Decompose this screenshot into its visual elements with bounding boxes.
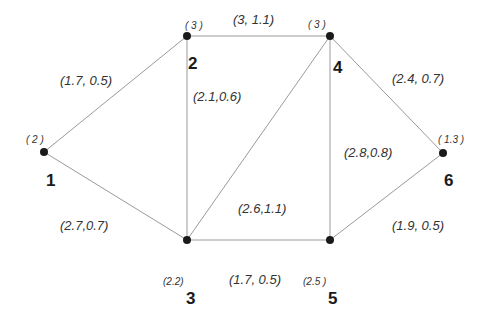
node-id-2: 2 — [188, 54, 197, 73]
edge-label-3-4: (2.6,1.1) — [238, 201, 286, 216]
node-3 — [183, 236, 191, 244]
node-weight-2: ( 3 ) — [185, 20, 203, 31]
node-id-1: 1 — [46, 171, 55, 190]
edge-label-4-5: (2.8,0.8) — [344, 145, 392, 160]
edge-1-2 — [44, 36, 187, 152]
node-weight-5: (2.5 ) — [303, 276, 326, 287]
edge-label-2-4: (3, 1.1) — [233, 12, 274, 27]
node-4 — [326, 32, 334, 40]
node-id-5: 5 — [328, 289, 337, 308]
edge-label-4-6: (2.4, 0.7) — [392, 71, 444, 86]
node-weight-3: (2.2) — [163, 276, 184, 287]
edge-label-5-6: (1.9, 0.5) — [392, 218, 444, 233]
node-1 — [40, 148, 48, 156]
node-6 — [439, 149, 447, 157]
edge-label-3-5: (1.7, 0.5) — [229, 272, 281, 287]
node-2 — [183, 32, 191, 40]
node-weight-6: ( 1.3 ) — [438, 134, 464, 145]
network-graph: (1.7, 0.5) (2.7,0.7) (3, 1.1) (2.1,0.6) … — [0, 0, 492, 324]
node-weight-1: ( 2 ) — [26, 134, 44, 145]
node-weight-4: ( 3 ) — [308, 19, 326, 30]
node-id-4: 4 — [333, 58, 343, 77]
node-5 — [326, 236, 334, 244]
node-id-6: 6 — [444, 171, 453, 190]
edge-label-1-3: (2.7,0.7) — [60, 218, 108, 233]
edge-4-6 — [330, 36, 443, 153]
edge-label-1-2: (1.7, 0.5) — [60, 73, 112, 88]
edge-label-2-3: (2.1,0.6) — [193, 89, 241, 104]
node-id-3: 3 — [186, 289, 195, 308]
